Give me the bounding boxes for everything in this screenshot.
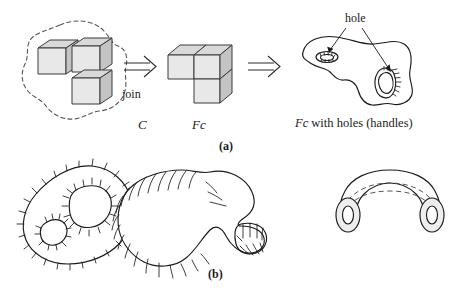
caption-holed-solid: Fc with holes (handles)	[295, 117, 413, 130]
caption-holed-solid-italic: Fc	[295, 116, 308, 130]
cube-3	[72, 70, 112, 104]
cube-3-front-face	[72, 78, 100, 104]
cube-group-c	[38, 38, 112, 104]
holed-solid-outline	[303, 37, 413, 106]
label-cube-set: C	[138, 118, 147, 131]
figure-root: C join Fc hole Fc with holes (handles) (…	[0, 0, 459, 295]
join-arrow-icon	[124, 56, 156, 77]
two-holed-disc-outline	[23, 166, 133, 264]
cube-2-front-face	[72, 46, 100, 72]
shape-tube-torus	[336, 170, 444, 232]
holed-solid-group	[303, 37, 413, 106]
shape-handle-surface	[112, 170, 267, 278]
cube-1-front-face	[38, 48, 66, 74]
sublabel-b: (b)	[208, 268, 223, 280]
tube-hole-right	[427, 206, 438, 224]
cube-2	[72, 38, 112, 72]
fc-front-top-right	[194, 55, 220, 79]
cube-group-fc	[168, 45, 232, 103]
label-join: join	[122, 88, 141, 100]
tube-hole-left	[343, 206, 354, 224]
label-joined-solid: Fc	[192, 118, 206, 131]
fc-front-top-left	[168, 55, 194, 79]
transform-arrow-icon	[248, 56, 280, 77]
caption-holed-solid-rest: with holes (handles)	[308, 116, 413, 130]
sublabel-a: (a)	[219, 140, 233, 152]
label-hole-annotation: hole	[345, 12, 366, 24]
fc-front-bottom-right	[194, 79, 220, 103]
